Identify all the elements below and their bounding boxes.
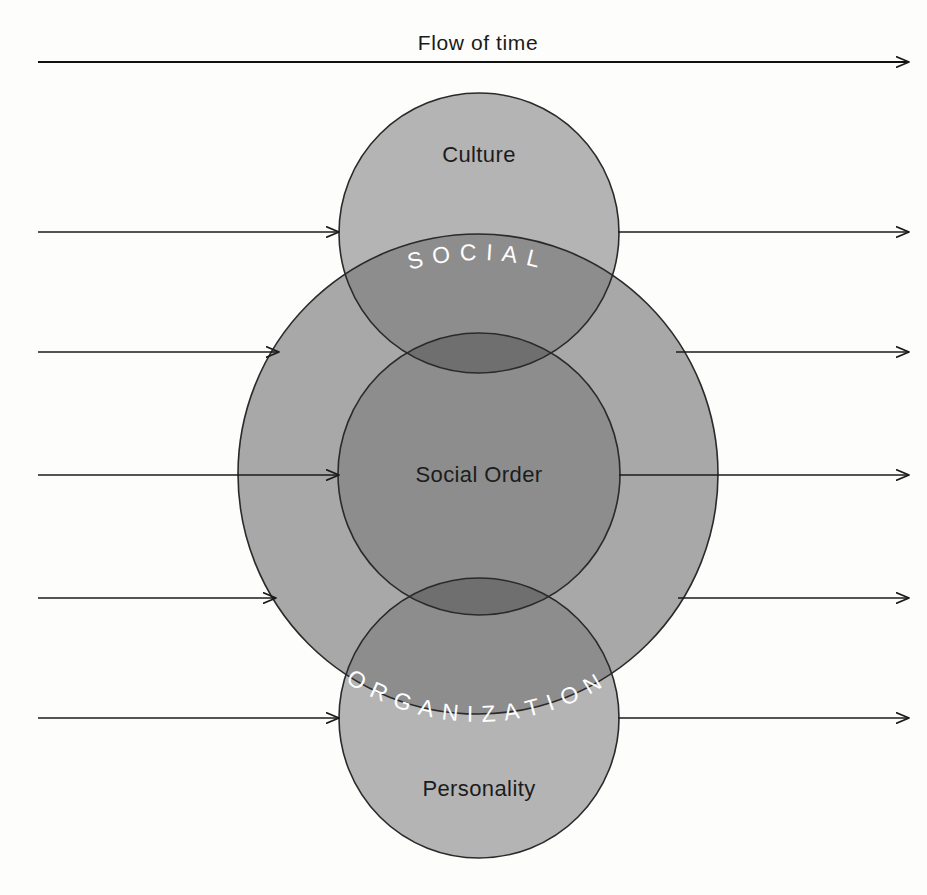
social-organization-diagram: Flow of time Culture Social Order Person… [0, 0, 927, 895]
social-order-label: Social Order [415, 462, 542, 487]
personality-label: Personality [422, 776, 535, 801]
culture-label: Culture [442, 142, 516, 167]
diagram-canvas: Flow of time Culture Social Order Person… [0, 0, 927, 895]
flow-of-time-label: Flow of time [418, 31, 538, 54]
